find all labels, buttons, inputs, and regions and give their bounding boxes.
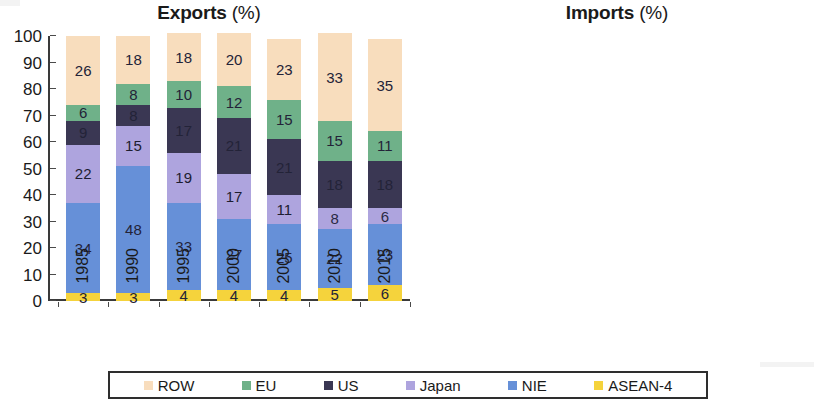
x-axis-tick-label: 2015 xyxy=(377,248,393,308)
bar-segment-value: 15 xyxy=(276,112,293,127)
y-axis-tick-label: 10 xyxy=(23,266,42,283)
legend-item-us: US xyxy=(324,378,359,393)
y-axis-tick-label: 40 xyxy=(23,187,42,204)
bar-segment-eu: 15 xyxy=(318,121,352,161)
bar-segment-row: 35 xyxy=(368,39,402,132)
y-axis-tick-label: 20 xyxy=(23,240,42,257)
x-axis-tick-label: 2000 xyxy=(226,248,242,308)
scan-artifact xyxy=(760,362,814,367)
legend-swatch-icon xyxy=(406,381,415,390)
legend-item-row: ROW xyxy=(144,378,195,393)
y-axis-tick-label: 60 xyxy=(23,134,42,151)
bar-segment-value: 8 xyxy=(129,87,137,102)
x-axis-tick-label: 2005 xyxy=(276,248,292,308)
legend-item-label: EU xyxy=(256,378,277,393)
bar-segment-value: 19 xyxy=(175,170,192,185)
bar-segment-value: 8 xyxy=(330,211,338,226)
bar-segment-row: 18 xyxy=(167,33,201,81)
x-axis-tick-label: 1995 xyxy=(176,248,192,308)
bar-segment-us: 21 xyxy=(267,139,301,195)
bar-segment-value: 9 xyxy=(79,125,87,140)
bar-segment-row: 26 xyxy=(66,36,100,105)
legend-item-label: Japan xyxy=(420,378,461,393)
bar-segment-eu: 8 xyxy=(116,84,150,105)
bar-segment-value: 17 xyxy=(226,189,243,204)
bar-segment-value: 26 xyxy=(75,63,92,78)
legend-item-japan: Japan xyxy=(406,378,461,393)
legend-item-label: ROW xyxy=(158,378,195,393)
bar-segment-us: 8 xyxy=(116,105,150,126)
chart-legend: ROWEUUSJapanNIEASEAN-4 xyxy=(108,371,708,399)
bar-segment-row: 23 xyxy=(267,39,301,100)
bar-segment-value: 18 xyxy=(377,177,394,192)
x-axis-tick-label: 2010 xyxy=(327,248,343,308)
bar-segment-us: 21 xyxy=(217,118,251,174)
bar-segment-japan: 6 xyxy=(368,208,402,224)
bar-segment-value: 6 xyxy=(381,209,389,224)
legend-swatch-icon xyxy=(242,381,251,390)
bar-segment-value: 17 xyxy=(175,123,192,138)
panel-exports: Exports (%) 0102030405060708090100 33422… xyxy=(0,0,418,360)
legend-item-eu: EU xyxy=(242,378,277,393)
panel-title-exports: Exports (%) xyxy=(0,2,418,24)
bar-segment-japan: 15 xyxy=(116,126,150,166)
legend-swatch-icon xyxy=(144,381,153,390)
bar-segment-row: 33 xyxy=(318,33,352,120)
bar-segment-value: 22 xyxy=(75,166,92,181)
x-axis-tick xyxy=(410,302,411,307)
bar-segment-us: 17 xyxy=(167,108,201,153)
bar-segment-japan: 17 xyxy=(217,174,251,219)
bar-segment-value: 18 xyxy=(125,52,142,67)
panel-title-exports-text: Exports xyxy=(157,2,226,23)
legend-item-label: US xyxy=(338,378,359,393)
x-axis-labels-exports: 1985199019952000200520102015 xyxy=(48,266,410,336)
bar-segment-value: 33 xyxy=(326,70,343,85)
y-axis-tick-label: 90 xyxy=(23,54,42,71)
bar-segment-value: 12 xyxy=(226,95,243,110)
y-axis-tick-label: 100 xyxy=(14,28,42,45)
legend-swatch-icon xyxy=(508,381,517,390)
bar-segment-value: 21 xyxy=(276,160,293,175)
y-axis-tick-label: 80 xyxy=(23,81,42,98)
x-axis-tick-label: 1985 xyxy=(75,248,91,308)
bar-segment-row: 18 xyxy=(116,36,150,84)
bar-segment-value: 10 xyxy=(175,87,192,102)
bar-segment-eu: 12 xyxy=(217,86,251,118)
bar-segment-value: 18 xyxy=(175,50,192,65)
bar-segment-japan: 11 xyxy=(267,195,301,224)
legend-item-asean-4: ASEAN-4 xyxy=(594,378,672,393)
bar-segment-value: 6 xyxy=(79,105,87,120)
bar-segment-value: 11 xyxy=(276,202,292,217)
bar-segment-eu: 6 xyxy=(66,105,100,121)
bar-segment-us: 18 xyxy=(368,161,402,209)
legend-item-label: ASEAN-4 xyxy=(608,378,672,393)
bar-segment-value: 21 xyxy=(226,138,243,153)
x-axis-tick-label: 1990 xyxy=(125,248,141,308)
legend-item-nie: NIE xyxy=(508,378,547,393)
legend-item-label: NIE xyxy=(522,378,547,393)
bar-segment-us: 9 xyxy=(66,121,100,145)
bar-segment-value: 23 xyxy=(276,62,293,77)
bar-segment-value: 11 xyxy=(377,138,393,153)
bar-segment-value: 48 xyxy=(125,222,142,237)
bar-segment-value: 15 xyxy=(125,138,142,153)
y-axis-tick-label: 70 xyxy=(23,107,42,124)
y-axis-tick-label: 30 xyxy=(23,213,42,230)
bar-segment-us: 18 xyxy=(318,161,352,209)
bar-segment-eu: 15 xyxy=(267,100,301,140)
legend-swatch-icon xyxy=(324,381,333,390)
bar-segment-japan: 22 xyxy=(66,145,100,203)
bar-segment-value: 20 xyxy=(226,52,243,67)
y-axis-tick-label: 50 xyxy=(23,160,42,177)
y-axis-tick-label: 0 xyxy=(33,293,42,310)
bar-segment-eu: 11 xyxy=(368,131,402,160)
bar-segment-row: 20 xyxy=(217,33,251,86)
panel-title-imports-unit: (%) xyxy=(639,2,668,23)
bar-segment-value: 8 xyxy=(129,108,137,123)
legend-swatch-icon xyxy=(594,381,603,390)
bar-segment-value: 35 xyxy=(377,78,394,93)
panel-imports: Imports (%) 0102030405060708090100 21236… xyxy=(418,0,816,360)
bar-segment-value: 15 xyxy=(326,133,343,148)
panel-title-imports-text: Imports xyxy=(566,2,634,23)
chart-figure: Exports (%) 0102030405060708090100 33422… xyxy=(0,0,816,406)
